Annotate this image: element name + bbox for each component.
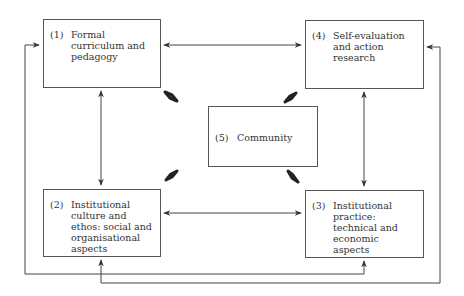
box-label: Institutional practice: technical and ec… bbox=[333, 200, 413, 255]
diamond-arrow-5-1 bbox=[165, 92, 177, 101]
diagram: (1) Formal curriculum and pedagogy (4) S… bbox=[0, 0, 464, 296]
box-number: (3) bbox=[312, 200, 325, 211]
box-institutional-practice: (3) Institutional practice: technical an… bbox=[305, 190, 424, 258]
box-number: (2) bbox=[50, 199, 63, 210]
box-number: (1) bbox=[50, 29, 63, 40]
box-community: (5) Community bbox=[208, 106, 318, 167]
box-label: Formal curriculum and pedagogy bbox=[71, 29, 153, 62]
box-label: Community bbox=[237, 132, 311, 143]
box-self-evaluation: (4) Self-evaluation and action research bbox=[305, 20, 424, 89]
diamond-arrow-5-2 bbox=[166, 171, 177, 180]
box-institutional-culture: (2) Institutional culture and ethos: soc… bbox=[43, 189, 161, 257]
box-number: (4) bbox=[312, 30, 325, 41]
box-label: Self-evaluation and action research bbox=[333, 30, 417, 63]
box-number: (5) bbox=[215, 132, 228, 143]
diamond-arrow-5-3 bbox=[288, 171, 298, 182]
diamond-arrow-5-4 bbox=[285, 93, 296, 102]
box-formal-curriculum: (1) Formal curriculum and pedagogy bbox=[43, 19, 161, 88]
box-label: Institutional culture and ethos: social … bbox=[71, 199, 155, 254]
